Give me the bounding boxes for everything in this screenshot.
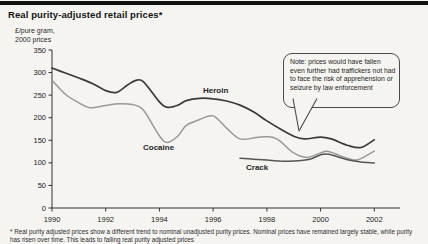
note-callout-bubble: Note: prices would have fallen even furt… [283,53,400,108]
x-tick-label: 1992 [97,215,114,224]
series-label-heroin: Heroin [203,86,228,95]
scanned-report-page: Real purity-adjusted retail prices* £/pu… [0,0,428,244]
series-label-cocaine: Cocaine [143,143,174,152]
y-tick-label: 350 [33,46,46,55]
x-tick-label: 2000 [312,215,329,224]
x-tick-label: 1990 [44,215,61,224]
y-tick-label: 100 [33,158,46,167]
series-line-crack [240,154,374,163]
x-tick-label: 1996 [205,215,222,224]
series-label-crack: Crack [246,163,268,172]
price-line-chart: 0501001502002503003501990199219941996199… [0,0,428,244]
y-tick-label: 50 [38,181,46,190]
y-tick-label: 200 [33,113,46,122]
y-tick-label: 150 [33,136,46,145]
x-tick-label: 1994 [151,215,168,224]
note-callout-text: Note: prices would have fallen even furt… [290,58,395,91]
x-tick-label: 1998 [259,215,276,224]
y-tick-label: 300 [33,68,46,77]
x-tick-label: 2002 [366,215,383,224]
y-tick-label: 250 [33,91,46,100]
y-tick-label: 0 [42,204,46,213]
